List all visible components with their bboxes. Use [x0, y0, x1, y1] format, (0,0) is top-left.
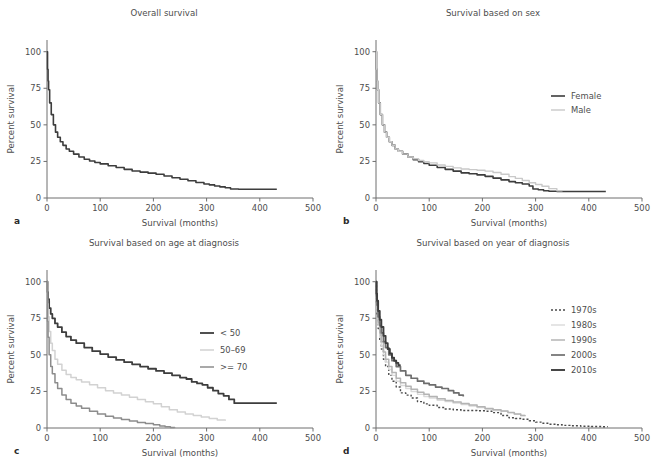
panel-c-plot: Survival based on age at diagnosis025507…: [0, 230, 328, 459]
panel-c-axes: [47, 270, 313, 428]
x-tick-label: 400: [252, 433, 268, 443]
x-tick-label: 0: [44, 203, 49, 213]
x-tick-label: 100: [92, 433, 108, 443]
x-tick-label: 300: [528, 203, 544, 213]
series-line-1990s: [376, 282, 525, 417]
x-tick-label: 500: [305, 433, 321, 443]
panel-b: Survival based on sex0255075100010020030…: [329, 0, 657, 229]
panel-c-title: Survival based on age at diagnosis: [89, 238, 240, 248]
legend-label: >= 70: [220, 362, 247, 372]
legend-label: < 50: [220, 328, 240, 338]
panel-b-legend: FemaleMale: [551, 91, 601, 115]
y-tick-label: 25: [30, 156, 41, 166]
panel-d-axes: [376, 270, 642, 428]
x-tick-label: 0: [44, 433, 49, 443]
panel-d-plot: Survival based on year of diagnosis02550…: [329, 230, 657, 459]
series-line--70: [47, 282, 175, 428]
x-tick-label: 200: [145, 433, 161, 443]
x-tick-label: 0: [373, 433, 378, 443]
y-tick-label: 100: [25, 47, 41, 57]
x-tick-label: 500: [634, 433, 650, 443]
panel-b-plot: Survival based on sex0255075100010020030…: [329, 0, 657, 229]
x-tick-label: 400: [581, 203, 597, 213]
y-tick-label: 75: [359, 83, 370, 93]
series-line-male: [376, 52, 562, 192]
x-tick-label: 0: [373, 203, 378, 213]
series-line-overall: [47, 52, 277, 190]
y-tick-label: 0: [365, 193, 370, 203]
legend-label: 1990s: [571, 335, 597, 345]
panel-a: Overall survival025507510001002003004005…: [0, 0, 328, 229]
legend-label: 1970s: [571, 305, 597, 315]
series-line-1980s: [376, 282, 525, 417]
legend-label: Female: [571, 91, 601, 101]
x-tick-label: 200: [474, 433, 490, 443]
y-axis-label: Percent survival: [335, 85, 345, 154]
panel-a-plot: Overall survival025507510001002003004005…: [0, 0, 328, 229]
survival-figure: Overall survival025507510001002003004005…: [0, 0, 657, 459]
legend-label: 50–69: [220, 345, 246, 355]
y-tick-label: 75: [359, 313, 370, 323]
panel-c-legend: < 5050–69>= 70: [200, 328, 247, 372]
x-tick-label: 100: [92, 203, 108, 213]
y-tick-label: 0: [365, 423, 370, 433]
x-tick-label: 100: [421, 203, 437, 213]
legend-label: 1980s: [571, 320, 597, 330]
series-line--50: [47, 282, 277, 403]
panel-letter: b: [343, 216, 350, 226]
panel-d: Survival based on year of diagnosis02550…: [329, 230, 657, 459]
panel-d-title: Survival based on year of diagnosis: [416, 238, 570, 248]
x-tick-label: 400: [581, 433, 597, 443]
y-tick-label: 100: [354, 277, 370, 287]
x-tick-label: 300: [528, 433, 544, 443]
y-tick-label: 25: [30, 386, 41, 396]
panel-b-title: Survival based on sex: [446, 8, 540, 18]
y-tick-label: 100: [25, 277, 41, 287]
x-axis-label: Survival (months): [471, 218, 547, 228]
y-tick-label: 25: [359, 156, 370, 166]
x-tick-label: 500: [305, 203, 321, 213]
y-tick-label: 50: [359, 350, 370, 360]
series-line-50-69: [47, 282, 225, 421]
x-tick-label: 200: [474, 203, 490, 213]
legend-label: 2000s: [571, 350, 597, 360]
y-axis-label: Percent survival: [6, 315, 16, 384]
y-tick-label: 50: [30, 350, 41, 360]
x-tick-label: 200: [145, 203, 161, 213]
y-tick-label: 50: [30, 120, 41, 130]
legend-label: 2010s: [571, 365, 597, 375]
x-tick-label: 300: [199, 433, 215, 443]
panel-d-legend: 1970s1980s1990s2000s2010s: [551, 305, 597, 375]
y-tick-label: 75: [30, 83, 41, 93]
series-line-2000s: [376, 282, 463, 397]
y-tick-label: 50: [359, 120, 370, 130]
legend-label: Male: [571, 105, 591, 115]
y-axis-label: Percent survival: [6, 85, 16, 154]
x-tick-label: 300: [199, 203, 215, 213]
x-tick-label: 100: [421, 433, 437, 443]
y-tick-label: 75: [30, 313, 41, 323]
x-tick-label: 500: [634, 203, 650, 213]
panel-letter: d: [343, 446, 349, 456]
panel-c: Survival based on age at diagnosis025507…: [0, 230, 328, 459]
x-axis-label: Survival (months): [142, 448, 218, 458]
panel-a-axes: [47, 40, 313, 198]
y-axis-label: Percent survival: [335, 315, 345, 384]
y-tick-label: 100: [354, 47, 370, 57]
y-tick-label: 25: [359, 386, 370, 396]
y-tick-label: 0: [36, 423, 41, 433]
panel-a-title: Overall survival: [130, 8, 197, 18]
x-axis-label: Survival (months): [471, 448, 547, 458]
y-tick-label: 0: [36, 193, 41, 203]
x-axis-label: Survival (months): [142, 218, 218, 228]
x-tick-label: 400: [252, 203, 268, 213]
panel-letter: c: [14, 446, 19, 456]
panel-letter: a: [14, 216, 20, 226]
